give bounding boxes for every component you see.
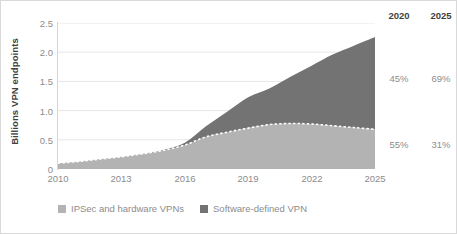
x-tick-label: 2013 [110, 173, 131, 184]
share-annotation-table: 2020 2025 45% 69% 55% 31% [384, 1, 456, 181]
stacked-area-chart-figure: Billions VPN endpoints 2.5 2.0 1.5 1.0 0… [0, 0, 457, 234]
x-tick-label: 2010 [47, 173, 68, 184]
x-tick-label: 2025 [364, 173, 385, 184]
legend-swatch-icon [58, 205, 66, 213]
y-tick-label: 1.0 [5, 106, 53, 117]
y-tick-label: 0 [5, 164, 53, 175]
share-value-ipsec-2020: 55% [384, 139, 414, 150]
legend-label: Software-defined VPN [213, 203, 307, 214]
y-tick-label: 1.5 [5, 76, 53, 87]
x-tick-label: 2016 [174, 173, 195, 184]
chart-legend: IPSec and hardware VPNs Software-defined… [58, 203, 307, 214]
share-value-sdvpn-2025: 69% [426, 73, 456, 84]
share-value-ipsec-2025: 31% [426, 139, 456, 150]
y-tick-label: 0.5 [5, 135, 53, 146]
share-row-software-defined-vpn: 45% 69% [384, 73, 456, 84]
y-tick-label: 2.0 [5, 47, 53, 58]
legend-item-ipsec-and-hardware-vpns[interactable]: IPSec and hardware VPNs [58, 203, 184, 214]
share-table-header-row: 2020 2025 [384, 10, 456, 21]
share-table-header-2020: 2020 [384, 10, 414, 21]
area-chart-svg [58, 23, 375, 169]
y-tick-label: 2.5 [5, 18, 53, 29]
share-table-header-2025: 2025 [426, 10, 456, 21]
x-tick-label: 2019 [237, 173, 258, 184]
y-axis-ticks: 2.5 2.0 1.5 1.0 0.5 0 [1, 1, 53, 234]
share-value-sdvpn-2020: 45% [384, 73, 414, 84]
share-row-ipsec-hardware-vpns: 55% 31% [384, 139, 456, 150]
plot-area [58, 23, 375, 169]
x-tick-label: 2022 [301, 173, 322, 184]
legend-item-software-defined-vpn[interactable]: Software-defined VPN [200, 203, 307, 214]
legend-swatch-icon [200, 205, 208, 213]
legend-label: IPSec and hardware VPNs [71, 203, 184, 214]
